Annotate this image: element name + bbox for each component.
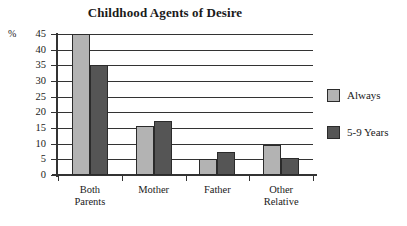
bar bbox=[90, 65, 108, 175]
bar bbox=[217, 152, 235, 175]
bar bbox=[281, 158, 299, 175]
x-axis-tick bbox=[58, 175, 59, 181]
chart-title: Childhood Agents of Desire bbox=[0, 5, 330, 21]
plot-area bbox=[58, 34, 313, 175]
legend-label: 5-9 Years bbox=[347, 127, 389, 138]
y-axis-unit-label: % bbox=[8, 29, 16, 39]
x-axis-tick bbox=[122, 175, 123, 181]
legend-label: Always bbox=[347, 90, 381, 101]
y-axis-tick-label: 15 bbox=[24, 123, 46, 134]
y-axis-tick-label: 30 bbox=[24, 76, 46, 87]
y-axis-tick-label: 10 bbox=[24, 139, 46, 150]
bar bbox=[154, 121, 172, 175]
bar bbox=[72, 34, 90, 175]
legend-swatch-icon bbox=[327, 89, 340, 102]
legend-item[interactable]: 5-9 Years bbox=[327, 125, 389, 139]
bar bbox=[136, 126, 154, 175]
bar bbox=[263, 145, 281, 175]
x-axis-tick bbox=[313, 175, 314, 181]
y-axis-tick-label: 20 bbox=[24, 107, 46, 118]
y-axis-tick-label: 45 bbox=[24, 29, 46, 40]
y-axis-tick-label: 40 bbox=[24, 45, 46, 56]
legend-item[interactable]: Always bbox=[327, 88, 381, 102]
legend-swatch-icon bbox=[327, 126, 340, 139]
y-axis-tick-label: 35 bbox=[24, 60, 46, 71]
bar bbox=[199, 159, 217, 175]
x-axis-tick bbox=[249, 175, 250, 181]
chart-container: Childhood Agents of Desire % 05101520253… bbox=[0, 0, 407, 226]
x-axis-category-label: Other Relative bbox=[241, 184, 321, 207]
y-axis-tick-label: 0 bbox=[24, 170, 46, 181]
y-axis-tick-label: 5 bbox=[24, 154, 46, 165]
x-axis-tick bbox=[186, 175, 187, 181]
y-axis-tick-label: 25 bbox=[24, 92, 46, 103]
